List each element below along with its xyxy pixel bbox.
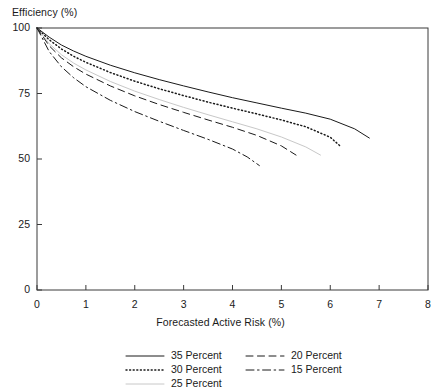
legend-column-1: 35 Percent30 Percent25 Percent [125, 349, 222, 391]
legend: 35 Percent30 Percent25 Percent 20 Percen… [125, 349, 395, 389]
x-tick-label: 2 [125, 298, 145, 310]
legend-item[interactable]: 30 Percent [125, 363, 222, 376]
legend-sample-line [125, 378, 165, 390]
legend-label: 15 Percent [291, 363, 342, 376]
y-tick-label: 75 [4, 87, 30, 99]
legend-sample-line [125, 350, 165, 362]
x-tick-label: 3 [174, 298, 194, 310]
x-tick-label: 8 [418, 298, 438, 310]
legend-label: 25 Percent [171, 377, 222, 390]
series-line-25-percent [37, 28, 320, 155]
x-axis-title: Forecasted Active Risk (%) [0, 316, 441, 328]
legend-swatch-icon [125, 364, 165, 376]
x-tick-label: 0 [27, 298, 47, 310]
series-line-20-percent [37, 28, 296, 155]
legend-sample-line [245, 364, 285, 376]
legend-item[interactable]: 20 Percent [245, 349, 342, 362]
legend-label: 35 Percent [171, 349, 222, 362]
y-tick-label: 50 [4, 152, 30, 164]
efficiency-chart: Efficiency (%) 0255075100 012345678 Fore… [0, 0, 441, 392]
legend-label: 30 Percent [171, 363, 222, 376]
series-line-35-percent [37, 28, 369, 138]
legend-swatch-icon [245, 350, 285, 362]
legend-swatch-icon [245, 364, 285, 376]
legend-item[interactable]: 25 Percent [125, 377, 222, 390]
legend-column-2: 20 Percent15 Percent [245, 349, 342, 377]
legend-sample-line [125, 364, 165, 376]
y-tick-label: 0 [4, 283, 30, 295]
series-lines [37, 28, 369, 166]
x-tick-label: 7 [369, 298, 389, 310]
x-tick-label: 1 [76, 298, 96, 310]
legend-item[interactable]: 15 Percent [245, 363, 342, 376]
legend-label: 20 Percent [291, 349, 342, 362]
y-tick-label: 25 [4, 218, 30, 230]
x-axis-ticks [37, 285, 428, 290]
legend-sample-line [245, 350, 285, 362]
axes [37, 28, 428, 290]
x-tick-label: 5 [271, 298, 291, 310]
legend-item[interactable]: 35 Percent [125, 349, 222, 362]
x-tick-label: 6 [320, 298, 340, 310]
plot-area [0, 0, 441, 392]
legend-swatch-icon [125, 350, 165, 362]
series-line-15-percent [37, 28, 259, 166]
legend-swatch-icon [125, 378, 165, 390]
y-axis-ticks [37, 28, 42, 290]
x-tick-label: 4 [223, 298, 243, 310]
y-tick-label: 100 [4, 21, 30, 33]
